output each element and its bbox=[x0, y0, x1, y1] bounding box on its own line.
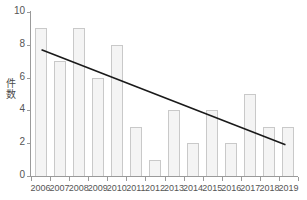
bar bbox=[149, 160, 161, 176]
x-tick-label: 2009 bbox=[88, 183, 108, 193]
x-tick-label: 2014 bbox=[183, 183, 203, 193]
bar bbox=[187, 143, 199, 176]
x-tick-label: 2006 bbox=[31, 183, 51, 193]
bar bbox=[111, 45, 123, 176]
x-tick-label: 2013 bbox=[164, 183, 184, 193]
bar bbox=[168, 110, 180, 176]
x-tick-label: 2008 bbox=[69, 183, 89, 193]
x-tick-mark bbox=[88, 177, 89, 181]
bar bbox=[225, 143, 237, 176]
bar bbox=[35, 28, 47, 176]
x-tick-mark bbox=[260, 177, 261, 181]
x-tick-mark bbox=[298, 177, 299, 181]
bar bbox=[92, 78, 104, 176]
bar bbox=[130, 127, 142, 176]
x-tick-label: 2012 bbox=[145, 183, 165, 193]
x-tick-mark bbox=[279, 177, 280, 181]
x-tick-label: 2015 bbox=[202, 183, 222, 193]
bar bbox=[54, 61, 66, 176]
x-tick-label: 2017 bbox=[240, 183, 260, 193]
x-axis-line bbox=[30, 176, 298, 177]
x-tick-mark bbox=[165, 177, 166, 181]
y-axis-title: 件 数 bbox=[4, 78, 18, 100]
x-tick-label: 2007 bbox=[50, 183, 70, 193]
x-tick-label: 2010 bbox=[107, 183, 127, 193]
x-tick-label: 2018 bbox=[259, 183, 279, 193]
x-tick-mark bbox=[203, 177, 204, 181]
bar bbox=[282, 127, 294, 176]
y-axis-title-char-2: 数 bbox=[4, 89, 18, 100]
x-tick-label: 2019 bbox=[278, 183, 298, 193]
x-tick-mark bbox=[107, 177, 108, 181]
y-tick-label: 6 bbox=[19, 71, 25, 82]
bar bbox=[244, 94, 256, 176]
y-tick-label: 10 bbox=[14, 5, 25, 16]
y-tick-mark bbox=[27, 143, 30, 144]
x-tick-mark bbox=[126, 177, 127, 181]
x-tick-mark bbox=[50, 177, 51, 181]
y-axis-line bbox=[30, 11, 31, 177]
y-tick: 4 bbox=[0, 110, 30, 111]
y-tick-mark bbox=[27, 176, 30, 177]
x-tick-label: 2016 bbox=[221, 183, 241, 193]
y-tick-mark bbox=[27, 78, 30, 79]
bar bbox=[73, 28, 85, 176]
y-tick: 0 bbox=[0, 176, 30, 177]
x-tick-mark bbox=[241, 177, 242, 181]
y-tick: 10 bbox=[0, 12, 30, 13]
x-tick-label: 2011 bbox=[126, 183, 145, 193]
x-tick-mark bbox=[222, 177, 223, 181]
y-tick: 8 bbox=[0, 45, 30, 46]
x-tick-mark bbox=[184, 177, 185, 181]
y-tick: 6 bbox=[0, 78, 30, 79]
y-tick-label: 4 bbox=[19, 103, 25, 114]
bar-chart: 件 数 024681020062007200820092010201120122… bbox=[0, 0, 307, 200]
x-tick-mark bbox=[31, 177, 32, 181]
bar bbox=[206, 110, 218, 176]
y-tick-mark bbox=[27, 12, 30, 13]
y-tick: 2 bbox=[0, 143, 30, 144]
y-tick-label: 2 bbox=[19, 136, 25, 147]
y-axis-title-char-1: 件 bbox=[4, 78, 18, 89]
y-tick-label: 0 bbox=[19, 169, 25, 180]
y-tick-mark bbox=[27, 110, 30, 111]
y-tick-label: 8 bbox=[19, 38, 25, 49]
bar bbox=[263, 127, 275, 176]
y-tick-mark bbox=[27, 45, 30, 46]
x-tick-mark bbox=[69, 177, 70, 181]
x-tick-mark bbox=[145, 177, 146, 181]
